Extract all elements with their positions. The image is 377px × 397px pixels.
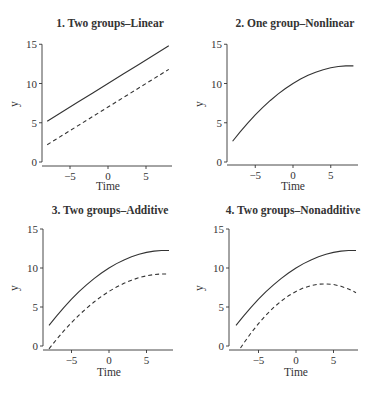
series-line-dashed [241, 284, 357, 348]
y-tick-label: 10 [211, 78, 223, 90]
y-axis-label: y [8, 285, 21, 291]
y-tick-label: 5 [219, 301, 225, 313]
x-tick-label: 5 [143, 170, 149, 182]
y-tick-label: 5 [33, 301, 39, 313]
x-tick-label: −5 [66, 354, 78, 366]
y-tick-label: 15 [213, 223, 225, 235]
chart-p4: 4. Two groups–Nonadditive051015−505Timey [193, 204, 360, 378]
x-tick-label: −5 [64, 170, 76, 182]
chart-title: 1. Two groups–Linear [56, 17, 164, 30]
x-axis-label: Time [96, 180, 120, 192]
y-tick-label: 10 [27, 262, 39, 274]
y-tick-label: 5 [32, 117, 38, 129]
y-tick-label: 10 [26, 78, 38, 90]
series-line-solid [47, 46, 169, 121]
x-axis-label: Time [281, 180, 305, 192]
y-tick-label: 15 [211, 38, 223, 50]
y-tick-label: 5 [217, 117, 223, 129]
y-axis-label: y [8, 101, 21, 107]
chart-p1: 1. Two groups–Linear051015−505Timey [8, 17, 172, 192]
series-line-dashed [49, 274, 169, 349]
series-line-dashed [47, 69, 169, 144]
chart-title: 2. One group–Nonlinear [236, 17, 355, 30]
chart-p3: 3. Two groups–Additive051015−505Timey [8, 204, 173, 378]
x-tick-label: 5 [144, 354, 150, 366]
series-line-solid [233, 66, 354, 141]
y-tick-label: 15 [27, 223, 39, 235]
y-tick-label: 15 [26, 38, 38, 50]
x-tick-label: −5 [249, 169, 261, 181]
figure-canvas: 1. Two groups–Linear051015−505Timey2. On… [0, 0, 377, 397]
y-axis-label: y [193, 101, 206, 107]
x-tick-label: 0 [106, 354, 112, 366]
y-tick-label: 0 [32, 156, 38, 168]
y-tick-label: 0 [217, 156, 223, 168]
x-tick-label: 5 [331, 354, 337, 366]
series-line-solid [49, 251, 169, 326]
x-axis-label: Time [284, 366, 308, 378]
x-tick-label: −5 [253, 354, 265, 366]
y-axis-label: y [193, 285, 206, 291]
y-tick-label: 10 [213, 262, 225, 274]
series-line-solid [236, 251, 356, 326]
chart-title: 3. Two groups–Additive [52, 204, 169, 217]
chart-p2: 2. One group–Nonlinear051015−505Timey [193, 17, 358, 192]
x-axis-label: Time [97, 366, 121, 378]
x-tick-label: 5 [328, 169, 334, 181]
chart-title: 4. Two groups–Nonadditive [226, 204, 361, 217]
y-tick-label: 0 [219, 340, 225, 352]
y-tick-label: 0 [33, 340, 39, 352]
x-tick-label: 0 [293, 354, 299, 366]
